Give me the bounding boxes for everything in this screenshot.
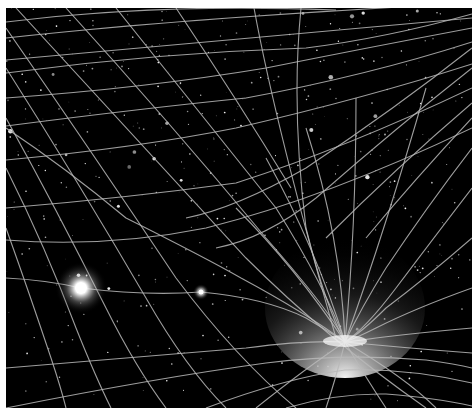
spacetime-grid-svg — [6, 8, 472, 408]
small-star-core — [199, 290, 204, 295]
spacetime-illustration — [6, 8, 472, 408]
bright-star-core — [75, 282, 87, 294]
gravity-well-core — [323, 335, 367, 347]
